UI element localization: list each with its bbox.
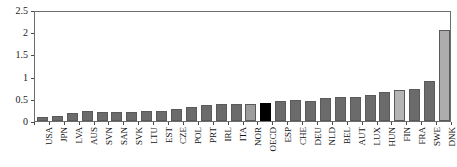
bar-aus: [82, 111, 93, 121]
x-axis-tick-mark: [287, 122, 288, 125]
x-axis-tick-label-svn: SVN: [105, 127, 114, 145]
x-axis-tick-label-bel: BEL: [343, 127, 352, 144]
x-axis-tick-mark: [362, 122, 363, 125]
bar-svn: [97, 112, 108, 121]
x-axis-tick-label-nor: NOR: [254, 127, 263, 146]
bar-jpn: [52, 116, 63, 121]
x-axis-tick-label-jpn: JPN: [60, 127, 69, 142]
x-axis-tick-label-san: SAN: [120, 127, 129, 145]
y-axis: 00.511.522.5: [0, 0, 34, 167]
y-axis-tick-label: 0: [23, 117, 28, 127]
bar-irl: [216, 104, 227, 121]
bar-oecd: [260, 103, 271, 121]
x-axis-tick-mark: [123, 122, 124, 125]
x-axis-tick-mark: [302, 122, 303, 125]
x-axis-tick-label-oecd: OECD: [269, 127, 278, 152]
x-axis-tick-label-lux: LUX: [373, 127, 382, 146]
x-axis-tick-label-che: CHE: [299, 127, 308, 145]
y-axis-tick-label: 2.5: [16, 6, 29, 16]
x-axis-tick-label-fin: FIN: [403, 127, 412, 142]
x-axis-tick-mark: [257, 122, 258, 125]
bar-che: [290, 100, 301, 121]
bar-ltu: [141, 111, 152, 121]
y-axis-tick-label: 1: [23, 73, 28, 83]
x-axis-tick-label-irl: IRL: [224, 127, 233, 142]
bar-pol: [186, 107, 197, 121]
x-axis-tick-label-fra: FRA: [418, 127, 427, 145]
x-axis-tick-mark: [377, 122, 378, 125]
x-axis-tick-mark: [406, 122, 407, 125]
x-axis-tick-mark: [183, 122, 184, 125]
x-axis-tick-mark: [213, 122, 214, 125]
y-axis-tick-label: 1.5: [16, 50, 29, 60]
bar-lux: [365, 95, 376, 121]
plot-area: [34, 11, 451, 122]
x-axis-tick-mark: [272, 122, 273, 125]
bar-svk: [126, 112, 137, 121]
x-axis-tick-label-cze: CZE: [179, 127, 188, 144]
bar-prt: [201, 105, 212, 121]
x-axis-tick-mark: [436, 122, 437, 125]
bar-esp: [275, 101, 286, 121]
bar-bel: [335, 97, 346, 121]
x-axis: USAJPNLVAAUSSVNSANSVKLTUESTCZEPOLPRTIRLI…: [34, 122, 451, 167]
x-axis-tick-label-swe: SWE: [433, 127, 442, 146]
bar-fra: [409, 89, 420, 121]
x-axis-tick-label-prt: PRT: [209, 127, 218, 143]
x-axis-tick-label-aut: AUT: [358, 127, 367, 146]
x-axis-tick-label-nld: NLD: [328, 127, 337, 146]
x-axis-tick-mark: [168, 122, 169, 125]
x-axis-tick-label-hun: HUN: [388, 127, 397, 147]
bar-usa: [37, 117, 48, 121]
x-axis-tick-mark: [391, 122, 392, 125]
bar-cze: [171, 109, 182, 121]
x-axis-tick-label-deu: DEU: [314, 127, 323, 146]
bars-container: [35, 12, 450, 121]
y-axis-tick-label: 0.5: [16, 95, 29, 105]
x-axis-tick-mark: [79, 122, 80, 125]
x-axis-tick-mark: [228, 122, 229, 125]
x-axis-tick-label-est: EST: [165, 127, 174, 143]
x-axis-tick-label-usa: USA: [45, 127, 54, 145]
bar-hun: [379, 92, 390, 121]
bar-dnk: [439, 30, 450, 121]
y-axis-tick-label: 2: [23, 28, 28, 38]
x-axis-tick-label-aus: AUS: [90, 127, 99, 145]
x-axis-tick-mark: [421, 122, 422, 125]
x-axis-tick-mark: [138, 122, 139, 125]
x-axis-tick-label-ita: ITA: [239, 127, 248, 141]
x-axis-tick-mark: [198, 122, 199, 125]
bar-fin: [394, 90, 405, 121]
x-axis-tick-mark: [317, 122, 318, 125]
x-axis-tick-mark: [243, 122, 244, 125]
x-axis-tick-label-svk: SVK: [135, 127, 144, 145]
x-axis-tick-mark: [451, 122, 452, 125]
bar-swe: [424, 81, 435, 121]
x-axis-tick-mark: [94, 122, 95, 125]
x-axis-tick-mark: [153, 122, 154, 125]
bar-est: [156, 111, 167, 121]
x-axis-tick-label-ltu: LTU: [150, 127, 159, 144]
x-axis-tick-mark: [347, 122, 348, 125]
bar-san: [111, 112, 122, 121]
bar-nor: [245, 104, 256, 121]
x-axis-tick-mark: [34, 122, 35, 125]
x-axis-tick-label-lva: LVA: [75, 127, 84, 144]
x-axis-tick-mark: [64, 122, 65, 125]
bar-deu: [305, 101, 316, 121]
bar-ita: [231, 104, 242, 121]
bar-lva: [67, 113, 78, 121]
x-axis-tick-label-esp: ESP: [284, 127, 293, 143]
x-axis-tick-mark: [49, 122, 50, 125]
x-axis-tick-mark: [332, 122, 333, 125]
bar-aut: [350, 97, 361, 121]
x-axis-tick-label-dnk: DNK: [448, 127, 457, 147]
bar-nld: [320, 98, 331, 121]
x-axis-tick-label-pol: POL: [194, 127, 203, 144]
x-axis-tick-mark: [108, 122, 109, 125]
